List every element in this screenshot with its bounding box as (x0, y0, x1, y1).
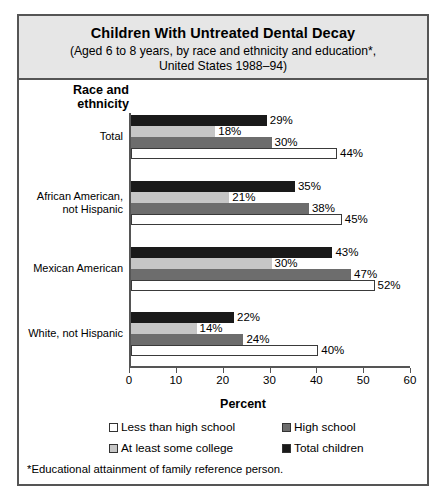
bar-row: 29% (131, 115, 447, 126)
bar-value-label: 47% (354, 268, 377, 280)
x-axis-tick (223, 368, 224, 373)
x-axis-tick-label: 0 (114, 374, 144, 386)
title-block: Children With Untreated Dental Decay (Ag… (19, 16, 427, 80)
bar-value-label: 30% (275, 136, 298, 148)
bar-row: 45% (131, 214, 447, 225)
bar (131, 148, 337, 159)
x-axis-tick-label: 50 (348, 374, 378, 386)
page-title: Children With Untreated Dental Decay (19, 25, 427, 42)
bar-row: 24% (131, 334, 447, 345)
footnote: *Educational attainment of family refere… (27, 463, 283, 475)
bar-value-label: 43% (335, 246, 358, 258)
x-axis-tick (129, 368, 130, 373)
subtitle-line-2: United States 1988–94) (19, 59, 427, 74)
bar-value-label: 40% (321, 344, 344, 356)
x-axis-tick-label: 60 (395, 374, 425, 386)
x-axis-tick-label: 40 (301, 374, 331, 386)
bar-row: 22% (131, 312, 447, 323)
legend-item-label: Total children (294, 441, 364, 455)
bar-value-label: 21% (232, 191, 255, 203)
bar-group-label: African American,not Hispanic (19, 190, 123, 215)
chart-figure: Children With Untreated Dental Decay (Ag… (17, 14, 429, 486)
legend-swatch-light-gray (109, 444, 118, 453)
legend-item-label: Less than high school (121, 420, 235, 434)
bar (131, 247, 332, 258)
bar-row: 52% (131, 280, 447, 291)
bar-value-label: 35% (298, 180, 321, 192)
x-axis-tick (176, 368, 177, 373)
bar-group-label: Mexican American (19, 262, 123, 275)
y-axis-title: Race and ethnicity (29, 83, 129, 111)
legend-item-label: At least some college (121, 441, 233, 455)
bar-value-label: 38% (312, 202, 335, 214)
bar (131, 192, 229, 203)
legend-item[interactable]: At least some college (109, 441, 233, 455)
legend-item-label: High school (294, 420, 356, 434)
x-axis-tick-label: 30 (255, 374, 285, 386)
y-axis-title-line-1: Race and (29, 83, 129, 97)
bar (131, 280, 375, 291)
bar-row: 44% (131, 148, 447, 159)
legend-row: At least some collegeTotal children (19, 441, 427, 461)
plot-area: Race and ethnicity 0102030405060 Total29… (19, 80, 427, 383)
legend-swatch-black (282, 444, 291, 453)
bar (131, 126, 215, 137)
x-axis-tick (316, 368, 317, 373)
x-axis-tick (270, 368, 271, 373)
bar-group-label-line-1: African American, (19, 190, 123, 203)
bar-value-label: 29% (270, 114, 293, 126)
bar (131, 345, 318, 356)
bar (131, 258, 272, 269)
x-axis-tick-label: 10 (161, 374, 191, 386)
bar-row: 30% (131, 137, 447, 148)
bar-value-label: 30% (275, 257, 298, 269)
bar-value-label: 18% (218, 125, 241, 137)
bar-value-label: 14% (200, 322, 223, 334)
bar-row: 30% (131, 258, 447, 269)
bar-value-label: 24% (246, 333, 269, 345)
y-axis-title-line-2: ethnicity (29, 97, 129, 111)
bar (131, 334, 243, 345)
bar (131, 115, 267, 126)
bar-group-label-line-1: Mexican American (19, 262, 123, 275)
bar (131, 203, 309, 214)
bar-row: 35% (131, 181, 447, 192)
bar-row: 38% (131, 203, 447, 214)
legend-item[interactable]: Total children (282, 441, 364, 455)
bar-row: 14% (131, 323, 447, 334)
bar-row: 40% (131, 345, 447, 356)
bar (131, 214, 342, 225)
bar-value-label: 22% (237, 311, 260, 323)
bar-row: 21% (131, 192, 447, 203)
bar (131, 181, 295, 192)
legend-swatch-dark-gray (282, 423, 291, 432)
x-axis-label: Percent (19, 397, 427, 411)
x-axis-tick (363, 368, 364, 373)
x-axis-tick (410, 368, 411, 373)
bar-group-label: Total (19, 130, 123, 143)
legend-item[interactable]: High school (282, 420, 356, 434)
legend-row: Less than high schoolHigh school (19, 420, 427, 440)
subtitle-line-1: (Aged 6 to 8 years, by race and ethnicit… (19, 44, 427, 59)
bar (131, 137, 272, 148)
bar-value-label: 45% (345, 213, 368, 225)
bar-group-label-line-2: not Hispanic (19, 203, 123, 216)
bar-group-label-line-1: Total (19, 130, 123, 143)
bar (131, 323, 197, 334)
bar-value-label: 52% (378, 279, 401, 291)
bar (131, 269, 351, 280)
bar-value-label: 44% (340, 147, 363, 159)
x-axis-tick-label: 20 (208, 374, 238, 386)
bar-group-label: White, not Hispanic (19, 327, 123, 340)
legend-item[interactable]: Less than high school (109, 420, 235, 434)
bar-group-label-line-1: White, not Hispanic (19, 327, 123, 340)
legend-swatch-white (109, 423, 118, 432)
chart-subtitle: (Aged 6 to 8 years, by race and ethnicit… (19, 44, 427, 74)
